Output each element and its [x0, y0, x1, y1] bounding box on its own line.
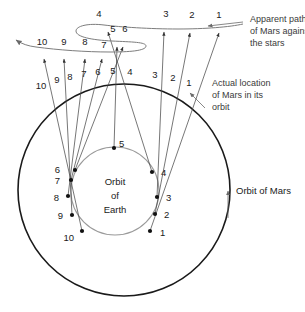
earth-dot-1 — [148, 229, 152, 233]
annotation-orbit-of-mars: Orbit of Mars — [236, 185, 291, 196]
sight-line-4 — [108, 32, 152, 172]
earth-dot-4 — [150, 170, 154, 174]
sight-line-5 — [114, 47, 117, 148]
earth-dot-6 — [73, 168, 77, 172]
mars-label-5: 5 — [110, 65, 115, 76]
earth-dot-7 — [69, 178, 73, 182]
earth-label-9: 9 — [58, 210, 63, 221]
earth-label-1: 1 — [160, 227, 165, 238]
apparent-path-line-3: the stars — [250, 38, 285, 48]
sight-line-9 — [64, 59, 72, 215]
mars-label-10: 10 — [36, 80, 47, 91]
apparent-path-curve — [16, 24, 243, 52]
actual-location-line-2: of Mars in its — [212, 90, 264, 100]
earth-label-8: 8 — [54, 192, 59, 203]
orbit-of-mars-label: Orbit of Mars — [236, 185, 291, 196]
sight-line-10 — [44, 59, 82, 231]
sky-label-6: 6 — [122, 23, 127, 34]
earth-label-4: 4 — [161, 167, 166, 178]
sky-label-8: 8 — [82, 36, 87, 47]
apparent-path-line-1: Apparent path — [250, 14, 305, 24]
actual-location-line-1: Actual location — [212, 78, 271, 88]
earth-label-5: 5 — [119, 138, 124, 149]
apparent-path-line-2: of Mars against — [250, 26, 305, 36]
sky-label-10: 10 — [37, 36, 48, 47]
sky-label-1: 1 — [216, 9, 221, 20]
orbit-of-earth-line-2: of — [111, 190, 119, 201]
sky-label-9: 9 — [61, 36, 66, 47]
actual-location-line-3: orbit — [212, 102, 230, 112]
earth-label-2: 2 — [164, 209, 169, 220]
earth-dot-2 — [153, 212, 157, 216]
earth-dot-8 — [66, 194, 70, 198]
diagram-canvas: 1 2 3 4 5 6 7 8 9 10 1 2 3 4 5 6 7 8 9 1… — [0, 0, 305, 312]
earth-label-3: 3 — [166, 192, 171, 203]
mars-label-8: 8 — [67, 71, 72, 82]
earth-dot-5 — [112, 146, 116, 150]
mars-label-7: 7 — [81, 68, 86, 79]
earth-dot-10 — [80, 229, 84, 233]
sky-label-3: 3 — [163, 8, 168, 19]
orbit-of-mars-circle — [18, 84, 230, 296]
earth-label-7: 7 — [55, 175, 60, 186]
apparent-path-group — [16, 24, 243, 52]
mars-label-3: 3 — [152, 69, 157, 80]
sky-label-5: 5 — [110, 23, 115, 34]
annotation-orbit-of-earth: Orbit of Earth — [104, 176, 127, 215]
annotation-apparent-path: Apparent path of Mars against the stars — [250, 14, 305, 48]
sky-label-7: 7 — [101, 39, 106, 50]
earth-dot-3 — [155, 195, 159, 199]
earth-label-6: 6 — [55, 164, 60, 175]
mars-label-6: 6 — [95, 66, 100, 77]
earth-dot-9 — [70, 213, 74, 217]
sky-label-4: 4 — [96, 8, 101, 19]
mars-position-labels: 1 2 3 4 5 6 7 8 9 10 — [36, 65, 192, 91]
mars-label-1: 1 — [186, 77, 191, 88]
orbit-of-earth-line-1: Orbit — [105, 176, 126, 187]
sky-label-2: 2 — [189, 9, 194, 20]
annotation-actual-location: Actual location of Mars in its orbit — [212, 78, 271, 112]
mars-label-9: 9 — [54, 74, 59, 85]
orbit-of-earth-line-3: Earth — [104, 204, 127, 215]
orbit-group — [18, 84, 230, 296]
earth-label-10: 10 — [63, 232, 74, 243]
sight-lines-group — [44, 32, 219, 231]
mars-label-2: 2 — [170, 72, 175, 83]
mars-label-4: 4 — [127, 66, 132, 77]
retrograde-motion-diagram: 1 2 3 4 5 6 7 8 9 10 1 2 3 4 5 6 7 8 9 1… — [0, 0, 305, 312]
